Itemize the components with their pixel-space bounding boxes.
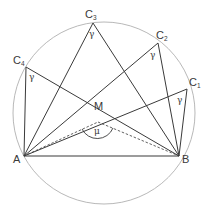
angle-label-gamma-c2: γ xyxy=(150,50,155,60)
angle-label-mu: μ xyxy=(94,126,100,136)
label-m: M xyxy=(94,100,103,112)
label-b: B xyxy=(182,153,189,165)
label-c4: C4 xyxy=(13,54,25,67)
angle-label-gamma-c3: γ xyxy=(89,29,94,39)
dashed-m-b xyxy=(98,122,179,156)
angle-label-gamma-c4: γ xyxy=(29,72,34,82)
inscribed-angle-diagram: A B M C3 C2 C4 C1 γ γ γ γ μ xyxy=(0,0,209,218)
label-a: A xyxy=(13,153,21,165)
label-c2: C2 xyxy=(156,29,168,42)
segment-a-c4 xyxy=(24,67,26,156)
label-c3: C3 xyxy=(85,8,97,21)
circumcircle xyxy=(13,22,195,204)
angle-label-gamma-c1: γ xyxy=(177,95,182,105)
label-c1: C1 xyxy=(189,76,201,89)
segment-a-c3 xyxy=(24,23,93,156)
